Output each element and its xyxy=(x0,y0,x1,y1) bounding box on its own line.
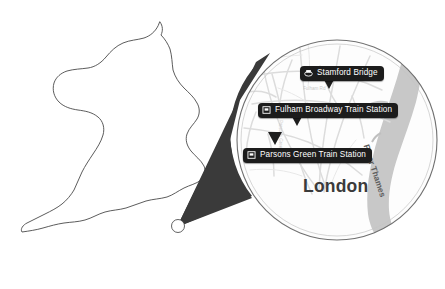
locator-map-figure: Fulham Rd Parsons Green Stamford Bridge … xyxy=(0,0,445,289)
poi-label-fulham-broadway[interactable]: Fulham Broadway Train Station xyxy=(258,103,398,118)
train-station-icon xyxy=(247,151,256,159)
city-label-london: London xyxy=(303,176,368,197)
stadium-icon xyxy=(304,69,313,77)
train-station-icon xyxy=(262,106,271,114)
poi-label-stamford-bridge[interactable]: Stamford Bridge xyxy=(300,66,384,81)
poi-label-text: Stamford Bridge xyxy=(317,68,378,78)
magnifier-inset-layer xyxy=(0,0,445,289)
poi-label-parsons-green[interactable]: Parsons Green Train Station xyxy=(243,148,372,163)
map-pin-parsons-green[interactable] xyxy=(268,132,282,145)
poi-label-text: Parsons Green Train Station xyxy=(260,150,366,160)
poi-label-text: Fulham Broadway Train Station xyxy=(275,105,392,115)
